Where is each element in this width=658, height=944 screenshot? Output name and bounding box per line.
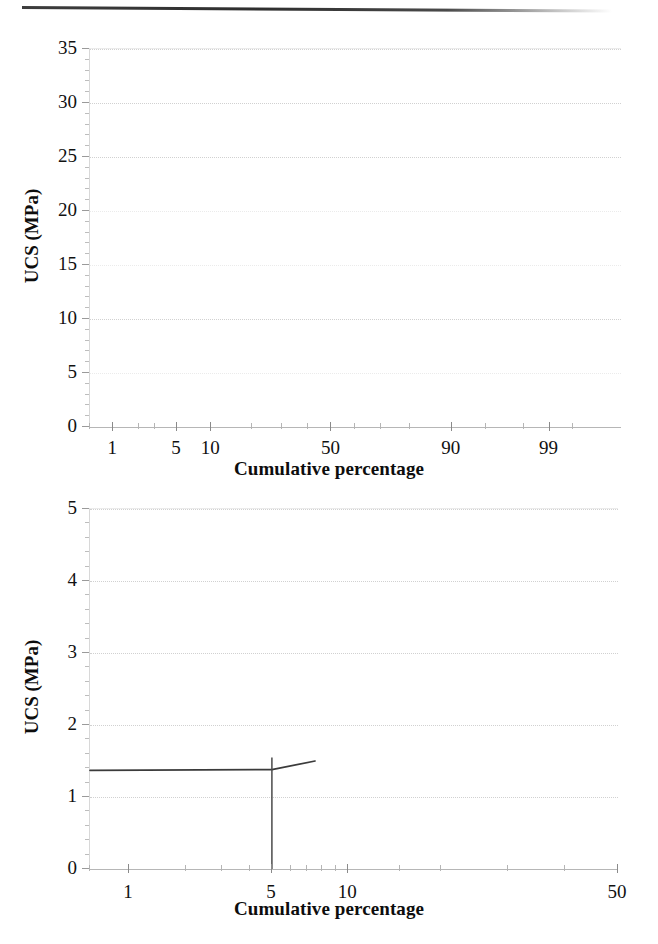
y-tick-minor (85, 199, 89, 200)
y-tick-3 (82, 652, 89, 653)
x-tick-90 (451, 422, 452, 431)
y-tick-2 (82, 724, 89, 725)
x-tick-minor (507, 865, 508, 871)
y-tick-30 (82, 102, 89, 103)
y-tick-minor (85, 695, 89, 696)
y-tick-minor (85, 825, 89, 826)
y-tick-minor (85, 710, 89, 711)
scan-artifact-line (22, 6, 612, 13)
y-tick-25 (82, 156, 89, 157)
x-tick-minor (221, 865, 222, 871)
y-axis-title-bottom: UCS (MPa) (21, 617, 43, 757)
y-tick-0 (82, 426, 89, 427)
y-tick-minor (85, 854, 89, 855)
x-axis-line-bottom (90, 869, 618, 870)
y-tick-minor (85, 307, 89, 308)
y-tick-4 (82, 580, 89, 581)
y-tick-35 (82, 48, 89, 49)
x-tick-10 (347, 864, 348, 873)
x-tick-minor (485, 423, 486, 429)
x-tick-minor (281, 423, 282, 429)
y-tick-minor (85, 91, 89, 92)
y-tick-label-20: 20 (29, 200, 77, 219)
chart-bottom: UCS (MPa) 012345 151050 Cumulative perce… (0, 480, 658, 944)
x-tick-minor (321, 865, 322, 871)
x-tick-minor (306, 865, 307, 871)
x-tick-minor (138, 423, 139, 429)
x-tick-minor (409, 423, 410, 429)
y-tick-minor (85, 124, 89, 125)
y-tick-minor (85, 167, 89, 168)
gridline-5 (90, 373, 621, 374)
x-tick-10 (210, 422, 211, 431)
y-tick-minor (85, 188, 89, 189)
x-axis-title-top: Cumulative percentage (0, 458, 658, 480)
y-tick-minor (85, 59, 89, 60)
x-tick-50 (330, 422, 331, 431)
x-tick-minor (290, 865, 291, 871)
y-tick-5 (82, 508, 89, 509)
gridline-20 (90, 211, 621, 212)
y-tick-label-3: 3 (31, 642, 77, 661)
x-tick-minor (335, 865, 336, 871)
y-tick-minor (85, 113, 89, 114)
y-tick-minor (85, 681, 89, 682)
y-tick-minor (85, 594, 89, 595)
y-tick-10 (82, 318, 89, 319)
x-tick-minor (185, 865, 186, 871)
plot-area-bottom (89, 508, 618, 869)
y-tick-minor (85, 232, 89, 233)
y-tick-minor (85, 666, 89, 667)
x-tick-minor (354, 423, 355, 429)
gridline-10 (90, 319, 621, 320)
y-tick-minor (85, 782, 89, 783)
data-series-bottom (90, 509, 618, 869)
y-tick-minor (85, 134, 89, 135)
y-tick-minor (85, 275, 89, 276)
y-tick-minor (85, 242, 89, 243)
chart-top: UCS (MPa) 05101520253035 1510509099 Cumu… (0, 18, 658, 480)
y-tick-minor (85, 537, 89, 538)
x-tick-5 (176, 422, 177, 431)
x-tick-5 (271, 864, 272, 873)
y-tick-minor (85, 551, 89, 552)
series-line-ucs (90, 761, 315, 770)
x-tick-minor (523, 423, 524, 429)
y-tick-label-35: 35 (29, 38, 77, 57)
plot-wrap-bottom: UCS (MPa) 012345 151050 Cumulative perce… (0, 480, 658, 944)
y-tick-0 (82, 868, 89, 869)
x-tick-1 (112, 422, 113, 431)
y-tick-minor (85, 753, 89, 754)
y-tick-minor (85, 296, 89, 297)
gridline-30 (90, 103, 621, 104)
y-tick-minor (85, 839, 89, 840)
y-tick-20 (82, 210, 89, 211)
y-tick-minor (85, 404, 89, 405)
x-tick-minor (89, 865, 90, 871)
y-tick-minor (85, 340, 89, 341)
y-tick-minor (85, 810, 89, 811)
plot-wrap-top: UCS (MPa) 05101520253035 1510509099 Cumu… (0, 18, 658, 480)
y-tick-minor (85, 522, 89, 523)
y-tick-minor (85, 361, 89, 362)
x-tick-minor (380, 423, 381, 429)
gridline-35 (90, 49, 621, 50)
y-tick-label-0: 0 (31, 858, 77, 877)
x-tick-label-99: 99 (519, 438, 579, 457)
y-tick-minor (85, 178, 89, 179)
x-tick-minor (89, 423, 90, 429)
y-tick-label-1: 1 (31, 786, 77, 805)
y-tick-label-10: 10 (29, 308, 77, 327)
x-tick-minor (440, 865, 441, 871)
y-tick-minor (85, 383, 89, 384)
x-tick-label-90: 90 (421, 438, 481, 457)
y-tick-label-25: 25 (29, 146, 77, 165)
x-tick-minor (251, 423, 252, 429)
y-tick-label-2: 2 (31, 714, 77, 733)
x-tick-1 (128, 864, 129, 873)
x-tick-minor (399, 865, 400, 871)
y-tick-minor (85, 329, 89, 330)
y-tick-label-15: 15 (29, 254, 77, 273)
y-tick-minor (85, 221, 89, 222)
y-axis-title-top: UCS (MPa) (21, 166, 43, 306)
